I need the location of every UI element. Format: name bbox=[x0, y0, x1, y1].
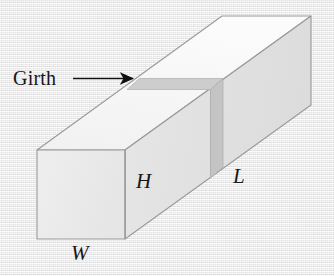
dimension-label-h: H bbox=[136, 171, 151, 192]
dimension-label-l: L bbox=[233, 166, 245, 187]
box-front-face bbox=[37, 150, 125, 239]
girth-figure: Girth H L W bbox=[0, 0, 334, 276]
girth-callout-label: Girth bbox=[13, 68, 56, 88]
girth-band-top-segment bbox=[127, 79, 223, 90]
box-illustration bbox=[0, 0, 334, 276]
girth-band-side-segment bbox=[211, 79, 224, 179]
dimension-label-w: W bbox=[71, 243, 89, 264]
